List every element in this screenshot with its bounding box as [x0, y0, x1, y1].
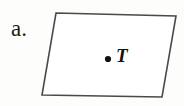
- plane-parallelogram-figure: [0, 0, 184, 106]
- parallelogram-plane: [42, 13, 176, 97]
- point-label-t: T: [116, 46, 128, 65]
- figure-container: a. T: [0, 0, 184, 106]
- point-dot-t: [105, 56, 111, 62]
- part-label: a.: [11, 17, 27, 40]
